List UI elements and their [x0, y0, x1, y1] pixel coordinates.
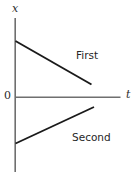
first-series-line	[16, 41, 92, 85]
y-axis-label: x	[12, 3, 18, 14]
first-series-label: First	[76, 50, 98, 61]
second-series-label: Second	[72, 132, 111, 143]
x-axis-label: t	[126, 89, 130, 100]
graph-canvas	[0, 0, 137, 173]
axes-group	[15, 18, 120, 172]
origin-label: 0	[4, 90, 11, 101]
position-time-graph-figure: x 0 t First Second	[0, 0, 137, 173]
